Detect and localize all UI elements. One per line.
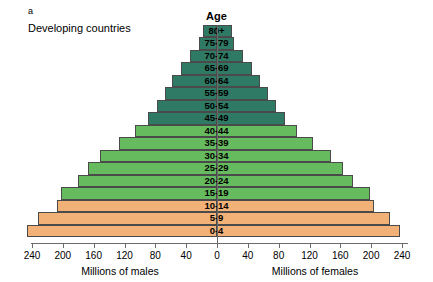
x-axis-tick-label: 240 bbox=[382, 250, 422, 262]
bar-female bbox=[217, 175, 353, 187]
bar-female bbox=[217, 62, 252, 74]
bar-male bbox=[172, 75, 217, 87]
bar-male bbox=[27, 225, 217, 237]
bar-male bbox=[199, 37, 217, 49]
bar-male bbox=[119, 137, 217, 149]
bar-male bbox=[135, 125, 217, 137]
x-axis-tick bbox=[279, 243, 280, 248]
bar-male bbox=[100, 150, 217, 162]
bar-female bbox=[217, 87, 268, 99]
age-axis-header: Age bbox=[0, 10, 433, 22]
x-axis-tick bbox=[125, 243, 126, 248]
bar-male bbox=[57, 200, 217, 212]
bar-male bbox=[190, 50, 217, 62]
bar-female bbox=[217, 150, 331, 162]
x-axis-tick bbox=[340, 243, 341, 248]
x-axis-tick bbox=[155, 243, 156, 248]
x-axis-tick bbox=[248, 243, 249, 248]
x-axis-tick bbox=[63, 243, 64, 248]
center-axis-line bbox=[217, 25, 218, 243]
x-axis-tick bbox=[217, 243, 218, 248]
bar-female bbox=[217, 162, 343, 174]
bar-male bbox=[203, 25, 217, 37]
bar-male bbox=[148, 112, 217, 124]
x-axis-tick bbox=[94, 243, 95, 248]
x-axis-tick bbox=[32, 243, 33, 248]
bar-male bbox=[38, 212, 217, 224]
x-axis-tick bbox=[310, 243, 311, 248]
bar-male bbox=[181, 62, 217, 74]
bar-female bbox=[217, 37, 234, 49]
bar-female bbox=[217, 50, 243, 62]
x-axis-line bbox=[31, 243, 408, 244]
bar-female bbox=[217, 100, 276, 112]
bar-male bbox=[157, 100, 217, 112]
bar-female bbox=[217, 112, 285, 124]
bar-male bbox=[78, 175, 217, 187]
bar-female bbox=[217, 75, 260, 87]
x-axis-tick bbox=[371, 243, 372, 248]
x-axis-tick bbox=[402, 243, 403, 248]
bar-female bbox=[217, 25, 232, 37]
bar-female bbox=[217, 225, 400, 237]
bar-female bbox=[217, 212, 390, 224]
bar-female bbox=[217, 200, 374, 212]
bar-male bbox=[88, 162, 217, 174]
x-axis-title-males: Millions of males bbox=[20, 265, 220, 277]
x-axis-tick bbox=[186, 243, 187, 248]
bar-female bbox=[217, 187, 370, 199]
population-pyramid-figure: a Developing countries Age 0-45-910-1415… bbox=[0, 0, 433, 282]
x-axis-title-females: Millions of females bbox=[215, 265, 415, 277]
bar-male bbox=[165, 87, 217, 99]
bar-male bbox=[61, 187, 217, 199]
bar-female bbox=[217, 137, 313, 149]
bar-female bbox=[217, 125, 297, 137]
